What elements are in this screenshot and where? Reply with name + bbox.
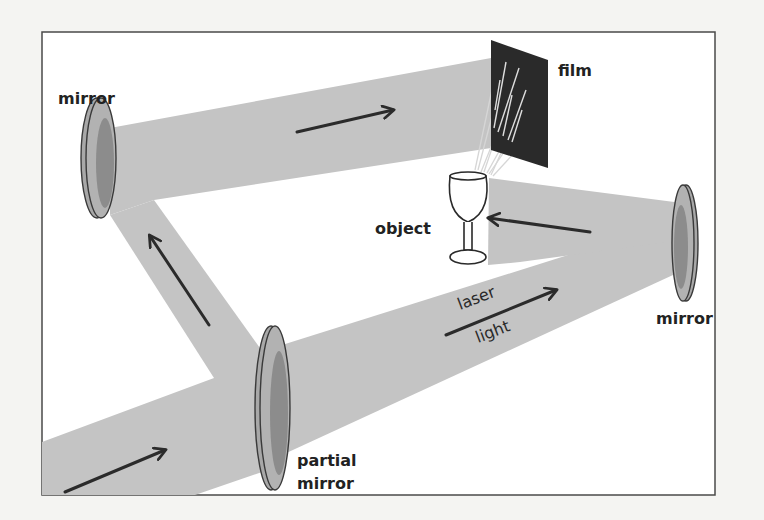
label-object: object <box>375 219 431 238</box>
glass-foot <box>450 250 486 264</box>
partial-mirror <box>255 326 290 490</box>
label-top-left-mirror: mirror <box>58 89 115 108</box>
glass-rim <box>450 172 486 180</box>
label-partial-mirror: mirror <box>297 474 354 493</box>
hologram-diagram: mirror film object laser light mirror pa… <box>0 0 764 520</box>
film-plate <box>491 40 548 168</box>
glass-stem <box>464 222 472 250</box>
right-mirror <box>672 185 698 301</box>
film <box>491 40 548 168</box>
top-left-mirror <box>81 98 116 218</box>
label-partial: partial <box>297 451 357 470</box>
label-right-mirror: mirror <box>656 309 713 328</box>
label-film: film <box>558 61 592 80</box>
